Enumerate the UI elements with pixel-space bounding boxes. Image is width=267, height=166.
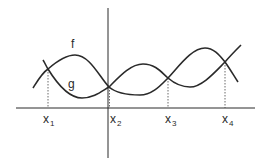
diagram-canvas: f g x 1 x 2 x 3 x 4 bbox=[0, 0, 267, 166]
tick-label-x2: x 2 bbox=[110, 112, 122, 128]
tick-label-x4-sub: 4 bbox=[229, 119, 234, 128]
tick-label-x2-base: x bbox=[110, 112, 116, 126]
curve-f bbox=[33, 48, 238, 95]
tick-label-x1: x 1 bbox=[43, 112, 55, 128]
tick-label-x4-base: x bbox=[222, 112, 228, 126]
tick-label-x1-base: x bbox=[43, 112, 49, 126]
tick-label-x4: x 4 bbox=[222, 112, 234, 128]
curve-label-f: f bbox=[71, 37, 75, 51]
tick-label-x3-base: x bbox=[165, 112, 171, 126]
tick-label-x2-sub: 2 bbox=[117, 119, 122, 128]
tick-label-x3: x 3 bbox=[165, 112, 177, 128]
tick-label-x1-sub: 1 bbox=[50, 119, 55, 128]
tick-label-x3-sub: 3 bbox=[172, 119, 177, 128]
curve-label-g: g bbox=[68, 77, 75, 91]
